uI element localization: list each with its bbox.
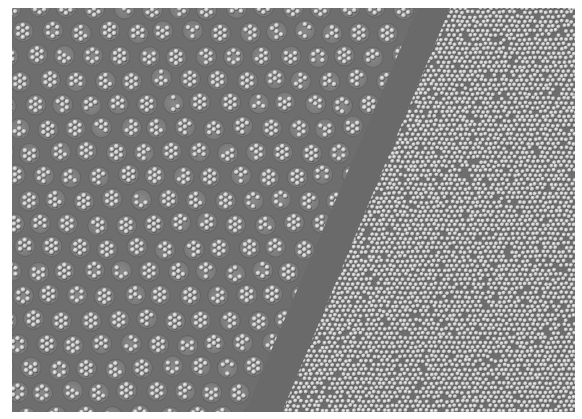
micrograph-canvas (12, 8, 575, 412)
micrograph-image: Micrograph of particle arrays: clustered… (12, 8, 575, 412)
